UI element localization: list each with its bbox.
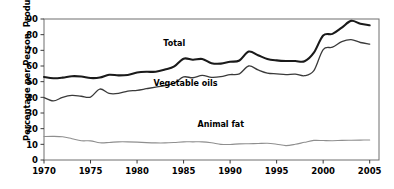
y-tick-label: 50 <box>26 77 38 87</box>
x-tick-label: 1975 <box>79 166 103 176</box>
y-tick-label: 90 <box>26 14 38 24</box>
series-label-total: Total <box>163 39 185 48</box>
x-tick-label: 2000 <box>311 166 335 176</box>
x-axis-ticks: 19701975198019851990199520002005 <box>32 160 381 176</box>
x-tick-label: 1995 <box>265 166 289 176</box>
x-tick-label: 2005 <box>358 166 382 176</box>
series-line-total <box>44 21 370 78</box>
axes <box>44 19 379 160</box>
y-tick-label: 70 <box>26 46 38 56</box>
y-tick-label: 20 <box>26 124 38 134</box>
x-tick-label: 1980 <box>125 166 149 176</box>
series-line-vegetable-oils <box>44 40 370 101</box>
y-tick-label: 60 <box>26 61 38 71</box>
y-tick-label: 0 <box>32 155 38 165</box>
y-tick-label: 30 <box>26 108 38 118</box>
y-tick-label: 40 <box>26 93 38 103</box>
series-line-animal-fat <box>44 136 370 145</box>
chart-figure: Percentage per Person, Product Weight 01… <box>0 0 394 189</box>
y-axis-ticks: 0102030405060708090 <box>26 14 44 165</box>
x-tick-label: 1990 <box>218 166 242 176</box>
x-tick-label: 1985 <box>172 166 196 176</box>
x-tick-label: 1970 <box>32 166 56 176</box>
series-annotations: TotalVegetable oilsAnimal fat <box>153 39 244 129</box>
series-label-animal-fat: Animal fat <box>198 120 245 129</box>
series-label-vegetable-oils: Vegetable oils <box>153 79 217 88</box>
y-tick-label: 80 <box>26 30 38 40</box>
y-tick-label: 10 <box>26 140 38 150</box>
line-chart-plot: 0102030405060708090 19701975198019851990… <box>0 0 394 189</box>
